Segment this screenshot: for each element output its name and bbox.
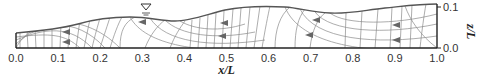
x-tick: 0.8 — [345, 52, 360, 64]
water-table-marker-icon — [141, 4, 151, 15]
y-tick-0.1: 0.1 — [443, 1, 458, 13]
y-axis-label: z/L — [464, 23, 478, 39]
arrow-icon — [392, 22, 400, 28]
y-tick-0.0: 0.0 — [443, 42, 458, 54]
arrow-icon — [220, 20, 228, 26]
flow-net — [16, 4, 437, 50]
water-table-surface — [16, 4, 437, 33]
arrow-icon — [312, 17, 320, 23]
x-tick: 1.0 — [429, 52, 444, 64]
arrow-icon — [138, 19, 146, 25]
flow-cell-2 — [130, 6, 290, 50]
x-tick: 0.4 — [177, 52, 192, 64]
x-tick: 0.2 — [93, 52, 108, 64]
x-tick: 0.9 — [387, 52, 402, 64]
x-axis-label: x/L — [217, 63, 235, 75]
arrow-icon — [62, 29, 70, 35]
x-tick: 0.1 — [50, 52, 65, 64]
arrow-icon — [392, 37, 400, 43]
flow-net-figure: 0.1 0.0 z/L 0.0 0.1 0.2 0.3 0.4 0.5 0.6 … — [0, 0, 480, 75]
arrow-icon — [218, 33, 226, 39]
x-tick: 0.6 — [261, 52, 276, 64]
arrow-icon — [62, 39, 70, 45]
x-tick: 0.0 — [8, 52, 23, 64]
x-tick: 0.7 — [303, 52, 318, 64]
x-tick: 0.3 — [135, 52, 150, 64]
flow-cell-1 — [16, 17, 135, 48]
